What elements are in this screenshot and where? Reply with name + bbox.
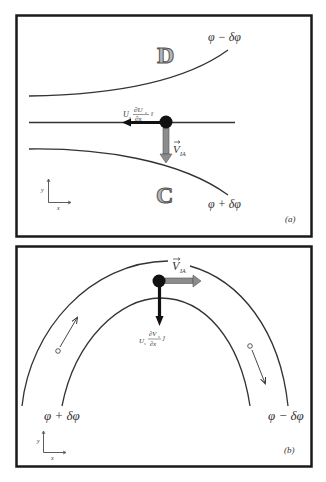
svg-text:y: y <box>40 187 44 193</box>
svg-text:î: î <box>151 110 154 118</box>
upper-streamline <box>29 50 228 96</box>
svg-text:y: y <box>36 438 40 444</box>
svg-text:∂x: ∂x <box>135 115 142 123</box>
velocity-label: V IA <box>173 141 186 158</box>
svg-text:s: s <box>129 115 131 120</box>
lower-streamline <box>29 149 228 195</box>
advection-arrowhead-b <box>156 316 164 326</box>
svg-text:s: s <box>144 341 146 346</box>
left-streamline-label: φ + δφ <box>44 408 80 423</box>
inner-streamline <box>62 298 250 406</box>
velocity-arrow-shaft <box>163 128 169 154</box>
axes-indicator-b: y x <box>36 431 66 461</box>
panel-b: V IA U s ∂V s ∂x ĵ φ + δφ φ − δφ y x (b) <box>17 247 312 467</box>
svg-text:IA: IA <box>179 268 186 274</box>
svg-text:∂V: ∂V <box>149 330 157 337</box>
svg-text:x: x <box>50 455 54 461</box>
outer-streamline-right <box>190 266 288 406</box>
axes-indicator-a: y x <box>40 179 71 211</box>
parcel-dot <box>160 116 173 129</box>
svg-text:IA: IA <box>179 151 186 157</box>
upper-streamline-label: φ − δφ <box>208 30 241 44</box>
velocity-label-b: V IA <box>172 258 186 275</box>
figure-canvas: D C φ − δφ φ + δφ U s ∂U s ∂x î V IA <box>0 0 326 482</box>
svg-text:ĵ: ĵ <box>162 334 166 342</box>
parcel-dot-b <box>153 275 166 288</box>
advection-term-label-b: U s ∂V s ∂x ĵ <box>139 330 166 347</box>
svg-text:∂U: ∂U <box>134 106 143 114</box>
velocity-arrowhead-b <box>193 275 201 287</box>
panel-a: D C φ − δφ φ + δφ U s ∂U s ∂x î V IA <box>17 16 312 237</box>
svg-text:x: x <box>56 205 60 211</box>
right-streamline-label: φ − δφ <box>268 408 304 423</box>
region-d: D <box>157 42 174 68</box>
region-c: C <box>156 182 173 208</box>
panel-b-tag: (b) <box>284 445 295 455</box>
flow-arrow-right <box>248 344 265 383</box>
lower-streamline-label: φ + δφ <box>208 197 241 211</box>
svg-text:s: s <box>158 334 160 339</box>
velocity-arrow-shaft-b <box>163 278 193 284</box>
svg-text:∂x: ∂x <box>150 340 156 347</box>
velocity-arrowhead <box>160 154 172 163</box>
panel-a-tag: (a) <box>285 214 296 224</box>
flow-arrow-left <box>56 318 77 353</box>
